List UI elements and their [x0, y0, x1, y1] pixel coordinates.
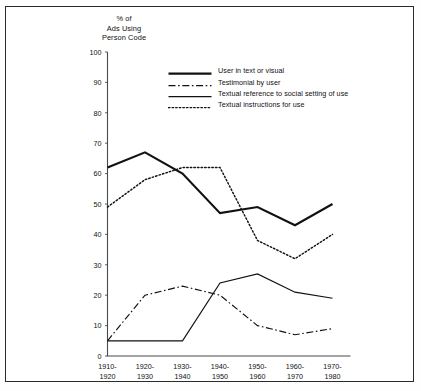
y-tick-label: 70: [82, 139, 102, 148]
y-tick-label: 60: [82, 169, 102, 178]
y-tick-label: 100: [82, 48, 102, 57]
x-tick-label-line-2: 1960: [237, 372, 279, 382]
y-axis-label-line-3: Person Code: [78, 33, 170, 43]
y-axis-label-line-1: % of: [78, 14, 170, 24]
x-tick-label-line-2: 1920: [87, 372, 129, 382]
y-tick-label: 80: [82, 109, 102, 118]
x-tick-label-line-2: 1980: [312, 372, 354, 382]
x-tick-label-line-1: 1910-: [87, 362, 129, 372]
y-tick-label: 50: [82, 200, 102, 209]
x-tick-label-line-1: 1930-: [162, 362, 204, 372]
legend-label: Textual reference to social setting of u…: [218, 89, 348, 98]
x-tick-label: 1970-1980: [312, 362, 354, 381]
figure: % of Ads Using Person Code 0102030405060…: [0, 0, 421, 391]
x-tick-label: 1960-1970: [274, 362, 316, 381]
y-tick-label: 0: [82, 352, 102, 361]
x-tick-label-line-1: 1970-: [312, 362, 354, 372]
legend-key-icon: [168, 99, 212, 110]
x-tick-label: 1920-1930: [124, 362, 166, 381]
x-tick-label: 1950-1960: [237, 362, 279, 381]
y-tick-label: 90: [82, 78, 102, 87]
legend-label: Testimonial by user: [218, 78, 280, 87]
y-axis-label-line-2: Ads Using: [78, 24, 170, 34]
x-tick-label-line-2: 1970: [274, 372, 316, 382]
x-tick-label-line-1: 1950-: [237, 362, 279, 372]
y-tick-label: 30: [82, 261, 102, 270]
legend-label: Textual instructions for use: [218, 100, 305, 109]
legend-key-icon: [168, 88, 212, 99]
legend-item: Testimonial by user: [168, 76, 348, 87]
chart-frame: [5, 6, 414, 382]
legend-item: User in text or visual: [168, 65, 348, 76]
legend-item: Textual instructions for use: [168, 99, 348, 110]
y-tick-label: 20: [82, 291, 102, 300]
x-tick-label-line-2: 1950: [199, 372, 241, 382]
y-tick-label: 40: [82, 230, 102, 239]
legend-label: User in text or visual: [218, 66, 284, 75]
legend: User in text or visualTestimonial by use…: [168, 65, 348, 111]
x-tick-label: 1910-1920: [87, 362, 129, 381]
x-tick-label-line-2: 1930: [124, 372, 166, 382]
x-tick-label: 1940-1950: [199, 362, 241, 381]
legend-key-icon: [168, 77, 212, 88]
x-tick-label: 1930-1940: [162, 362, 204, 381]
x-tick-label-line-1: 1940-: [199, 362, 241, 372]
y-tick-label: 10: [82, 321, 102, 330]
x-tick-label-line-1: 1960-: [274, 362, 316, 372]
x-tick-label-line-1: 1920-: [124, 362, 166, 372]
x-tick-label-line-2: 1940: [162, 372, 204, 382]
y-axis-label: % of Ads Using Person Code: [78, 14, 170, 43]
legend-key-icon: [168, 65, 212, 76]
legend-item: Textual reference to social setting of u…: [168, 88, 348, 99]
